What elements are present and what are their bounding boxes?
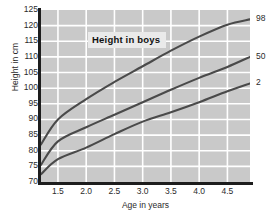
x-tick-label: 1.5: [45, 186, 71, 196]
x-axis-line: [38, 182, 253, 185]
y-tick-label: 70: [12, 177, 38, 186]
y-axis-tick-labels: 125120115110105100959085807570: [12, 0, 38, 217]
x-tick-label: 4.0: [186, 186, 212, 196]
y-tick-label: 100: [12, 83, 38, 92]
x-axis-title: Age in years: [41, 200, 250, 210]
y-tick-label: 80: [12, 146, 38, 155]
percentile-curve-2: [41, 83, 250, 174]
y-tick-label: 115: [12, 36, 38, 45]
chart-title: Height in boys: [88, 32, 166, 48]
x-tick-label: 3.0: [130, 186, 156, 196]
percentile-label-98: 98: [256, 14, 280, 23]
x-tick-label: 3.5: [158, 186, 184, 196]
y-tick-label: 90: [12, 114, 38, 123]
y-tick-label: 110: [12, 52, 38, 61]
y-tick-label: 95: [12, 99, 38, 108]
x-axis-tick-labels: 1.52.02.53.03.54.04.5: [0, 186, 280, 200]
y-tick-label: 85: [12, 130, 38, 139]
plot-area: Height in boys: [41, 10, 250, 182]
percentile-label-50: 50: [256, 52, 280, 61]
growth-chart: Height in cm 125120115110105100959085807…: [0, 0, 280, 217]
y-axis-line: [38, 8, 41, 184]
percentile-labels: 98502: [256, 0, 280, 217]
y-tick-label: 75: [12, 161, 38, 170]
y-tick-label: 105: [12, 68, 38, 77]
x-tick-label: 2.0: [73, 186, 99, 196]
percentile-label-2: 2: [256, 78, 280, 87]
x-tick-label: 2.5: [101, 186, 127, 196]
y-tick-label: 120: [12, 21, 38, 30]
y-tick-label: 125: [12, 5, 38, 14]
x-tick-label: 4.5: [214, 186, 240, 196]
